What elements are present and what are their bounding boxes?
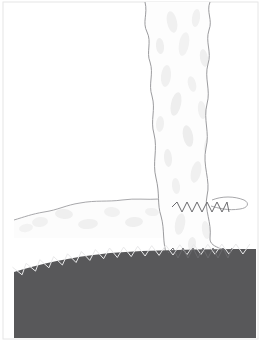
eruption-plume-diagram	[0, 0, 272, 353]
figure-root	[0, 0, 272, 353]
